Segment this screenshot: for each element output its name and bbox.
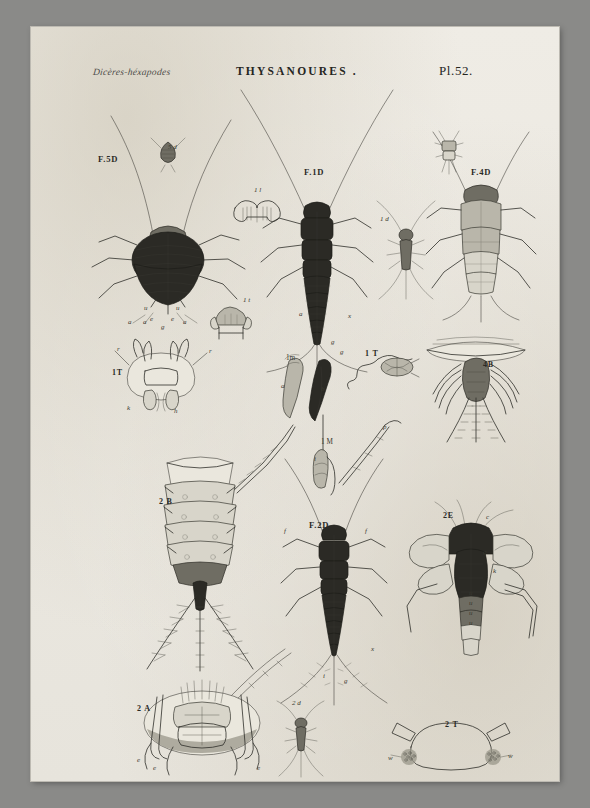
figure-label-4b: 4B	[483, 360, 494, 369]
figure-label-1T-head: 1T	[112, 368, 123, 377]
annotation-k: k	[127, 404, 130, 412]
annotation-2a-e3: e	[257, 764, 260, 772]
figure-label-f5d: F.5D	[98, 154, 118, 164]
figure-f2d-drawing	[259, 457, 409, 707]
plate-image: Dicères-héxapodes THYSANOURES . Pl.52.	[0, 0, 590, 808]
figure-4b-drawing	[417, 332, 537, 442]
annotation-f2d-g: g	[344, 677, 348, 685]
annotation-f-left: f	[284, 527, 286, 535]
annotation-2e-u3: u	[469, 609, 473, 617]
annotation-2e-u1: u	[469, 589, 473, 597]
figure-label-f1d: F.1D	[304, 167, 324, 177]
figure-2d-inset-drawing	[271, 699, 331, 779]
figure-label-2a: 2 A	[137, 704, 151, 713]
figure-label-f2d: F.2D	[309, 520, 329, 530]
figure-label-1T-antenna: 1 T	[365, 349, 379, 358]
figure-label-f4d: F.4D	[471, 167, 491, 177]
annotation-2e-u4: u	[469, 619, 473, 627]
plate-title: THYSANOURES .	[236, 65, 358, 77]
annotation-1M-p: p	[383, 423, 387, 431]
annotation-2e-k: k	[493, 567, 496, 575]
annotation-r-left: r	[117, 345, 120, 353]
annotation-leaders-f5d	[119, 297, 209, 333]
figure-label-2e: 2E	[443, 511, 454, 520]
annotation-1m-a: a	[281, 382, 285, 390]
annotation-f2d-i: i	[323, 672, 325, 680]
plate-number: Pl.52.	[439, 63, 473, 79]
annotation-f-right: f	[365, 527, 367, 535]
annotation-g-axis: g	[331, 338, 335, 346]
annotation-2t-w-left: w	[388, 754, 393, 762]
figure-2e-drawing	[401, 502, 541, 662]
annotation-x-axis: x	[348, 312, 351, 320]
annotation-r-right: r	[209, 347, 212, 355]
handwritten-annotation: Dicères-héxapodes	[92, 67, 171, 77]
figure-label-2t: 2 T	[445, 720, 459, 729]
figure-label-1d: 1 d	[380, 215, 389, 223]
plate-paper: Dicères-héxapodes THYSANOURES . Pl.52.	[31, 27, 559, 781]
annotation-2e-c: c	[486, 513, 489, 521]
figure-1T-antenna-drawing	[341, 349, 421, 399]
annotation-2a-e2: e	[153, 764, 156, 772]
figure-label-1M: 1 M	[321, 438, 333, 446]
annotation-2e-u2: u	[469, 599, 473, 607]
annotation-2a-e1: e	[137, 756, 140, 764]
figure-label-2b: 2 B	[159, 497, 173, 506]
annotation-2t-w-right: w	[508, 752, 513, 760]
figure-label-2d: 2 d	[292, 699, 301, 707]
annotation-f2d-x: x	[371, 645, 374, 653]
figure-label-1m: 1m	[286, 354, 295, 362]
annotation-a-axis: a	[299, 310, 303, 318]
figure-4d-inset-drawing	[429, 127, 469, 175]
annotation-2e-g: g	[483, 548, 487, 556]
annotation-h: h	[174, 407, 178, 415]
plate-content: Dicères-héxapodes THYSANOURES . Pl.52.	[31, 27, 559, 781]
figure-label-5d: 5 d	[168, 143, 177, 151]
annotation-1m-b: b	[321, 385, 325, 393]
